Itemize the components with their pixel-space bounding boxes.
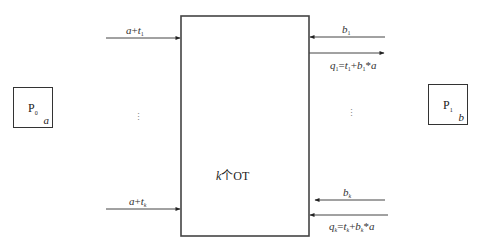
diagram-lines bbox=[0, 0, 480, 251]
party-p1-label: P1 bbox=[443, 98, 453, 113]
ellipsis-left: ⋮ bbox=[134, 116, 143, 119]
label-bk: bk bbox=[343, 187, 351, 199]
label-a-plus-tk: a+tk bbox=[129, 196, 146, 208]
label-a-plus-t1: a+t1 bbox=[126, 25, 144, 37]
label-b1: b1 bbox=[342, 24, 351, 36]
ellipsis-right: ⋮ bbox=[347, 112, 356, 115]
label-q1-formula: q1=t1+b1*a bbox=[330, 60, 377, 72]
ot-box-label: k个OT bbox=[216, 166, 249, 184]
party-p0-label: P0 bbox=[28, 101, 38, 116]
party-p0-secret: a bbox=[44, 114, 50, 126]
party-p1-box: P1 b bbox=[428, 84, 468, 125]
label-qk-formula: qk=tk+bk*a bbox=[329, 221, 375, 233]
ot-box bbox=[181, 16, 309, 236]
party-p0-box: P0 a bbox=[13, 87, 53, 128]
party-p1-secret: b bbox=[459, 111, 465, 123]
